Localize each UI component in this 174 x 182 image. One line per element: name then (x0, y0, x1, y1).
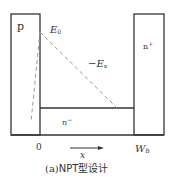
x-axis-label: x (80, 151, 85, 160)
ex-subscript: x (104, 62, 107, 69)
origin-label: 0 (36, 143, 42, 152)
p-region-field-line (31, 32, 40, 122)
diagram-canvas (0, 0, 174, 182)
x-axis-arrowhead-icon (98, 146, 104, 150)
wb-subscript: B (145, 147, 149, 154)
caption-prefix: (a) (45, 163, 59, 174)
n-minus-region-label: n− (62, 117, 72, 127)
n-plus-region-label: n+ (143, 41, 153, 51)
wb-base: W (135, 143, 145, 154)
caption-text: NPT型设计 (59, 163, 109, 174)
npt-design-diagram: p n+ E0 −Ex n− 0 WB x (a)NPT型设计 (0, 0, 174, 182)
ex-base: E (96, 58, 103, 69)
ex-field-label: −Ex (88, 59, 107, 69)
wb-base-width-label: WB (135, 144, 150, 154)
figure-caption: (a)NPT型设计 (45, 164, 108, 174)
n-minus-superscript: − (67, 116, 72, 123)
n-plus-superscript: + (148, 40, 153, 47)
npt-field-profile-line (40, 32, 117, 108)
p-region-label: p (17, 21, 24, 32)
e0-peak-field-label: E0 (50, 25, 61, 35)
n-plus-region-box (134, 14, 164, 135)
e0-subscript: 0 (57, 28, 61, 35)
